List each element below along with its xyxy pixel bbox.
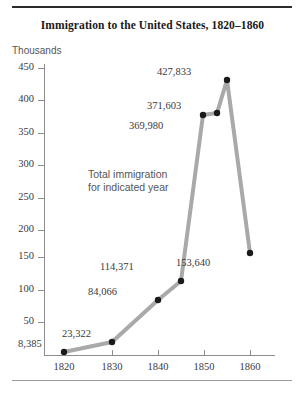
data-point-marker xyxy=(109,339,115,345)
chart-annotation: Total immigration for indicated year xyxy=(88,168,169,194)
data-point-label: 114,371 xyxy=(100,261,134,272)
chart-figure: Immigration to the United States, 1820–1… xyxy=(0,0,305,397)
data-point-marker xyxy=(224,77,230,83)
data-point-marker xyxy=(214,110,220,116)
data-point-marker xyxy=(178,278,184,284)
plot-area: 45040035030025020015010050 1820183018401… xyxy=(0,0,305,397)
data-point-marker xyxy=(155,297,161,303)
data-point-label: 84,066 xyxy=(88,286,117,297)
data-point-label: 369,980 xyxy=(129,120,163,131)
series-markers xyxy=(61,77,253,355)
data-point-marker xyxy=(200,112,206,118)
data-point-label: 8,385 xyxy=(18,338,42,349)
data-point-label: 23,322 xyxy=(62,328,91,339)
immigration-series xyxy=(0,0,305,397)
data-point-label: 153,640 xyxy=(176,257,210,268)
data-point-marker xyxy=(61,349,67,355)
data-point-marker xyxy=(247,250,253,256)
data-point-label: 371,603 xyxy=(147,100,181,111)
data-point-label: 427,833 xyxy=(157,66,191,77)
